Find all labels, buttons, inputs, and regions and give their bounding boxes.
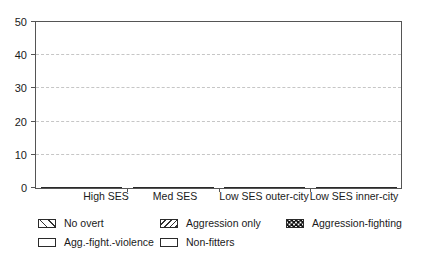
y-axis-tick-label: 30 bbox=[15, 83, 27, 94]
bar bbox=[240, 187, 257, 188]
legend-swatch-open-white bbox=[160, 238, 178, 247]
bar-group-1 bbox=[41, 187, 121, 188]
legend-label: Aggression-fighting bbox=[312, 217, 402, 229]
legend-item: Agg.-fight.-violence bbox=[38, 236, 160, 248]
legend-item: Aggression only bbox=[160, 217, 286, 229]
x-axis-label: High SES bbox=[83, 190, 129, 203]
bar bbox=[348, 187, 365, 188]
bar bbox=[73, 187, 90, 188]
y-axis-tick-label: 50 bbox=[15, 17, 27, 28]
x-axis-label: Low SES outer-city bbox=[219, 190, 308, 203]
legend-item: No overt bbox=[38, 217, 160, 229]
y-axis-tick-label: 0 bbox=[21, 183, 27, 194]
legend-label: Agg.-fight.-violence bbox=[64, 236, 154, 248]
plot-area: 01020304050 bbox=[35, 21, 402, 189]
bar bbox=[165, 187, 182, 188]
bar bbox=[41, 187, 58, 188]
bar bbox=[332, 187, 349, 188]
bar bbox=[364, 187, 381, 188]
bar bbox=[288, 187, 305, 188]
bar bbox=[224, 187, 241, 188]
bar bbox=[380, 187, 397, 188]
bar bbox=[181, 187, 198, 188]
legend-label: Non-fitters bbox=[186, 236, 234, 248]
bar bbox=[57, 187, 74, 188]
bar bbox=[197, 187, 214, 188]
bar bbox=[105, 187, 122, 188]
bar bbox=[89, 187, 106, 188]
bar-group-4 bbox=[316, 187, 396, 188]
bar-groups bbox=[36, 22, 401, 188]
bar bbox=[149, 187, 166, 188]
legend-item: Aggression-fighting bbox=[286, 217, 402, 229]
y-axis-tick-label: 20 bbox=[15, 116, 27, 127]
bar-group-2 bbox=[133, 187, 213, 188]
bar-chart-figure: 01020304050 High SESMed SESLow SES outer… bbox=[0, 0, 426, 264]
bar-group-3 bbox=[224, 187, 304, 188]
legend-item: Non-fitters bbox=[160, 236, 286, 248]
bar bbox=[316, 187, 333, 188]
y-axis-tick-label: 40 bbox=[15, 50, 27, 61]
legend: No overtAggression onlyAggression-fighti… bbox=[38, 217, 402, 248]
legend-swatch-backslash-hatch bbox=[38, 219, 56, 228]
bar bbox=[133, 187, 150, 188]
bar bbox=[256, 187, 273, 188]
y-axis-tick-label: 10 bbox=[15, 149, 27, 160]
legend-label: No overt bbox=[64, 217, 104, 229]
legend-swatch-dots bbox=[286, 219, 304, 228]
legend-label: Aggression only bbox=[186, 217, 261, 229]
bar bbox=[272, 187, 289, 188]
x-axis-label: Low SES inner-city bbox=[310, 190, 399, 203]
legend-swatch-solid-black bbox=[38, 238, 56, 247]
x-axis-label: Med SES bbox=[153, 190, 197, 203]
legend-swatch-slash-hatch bbox=[160, 219, 178, 228]
